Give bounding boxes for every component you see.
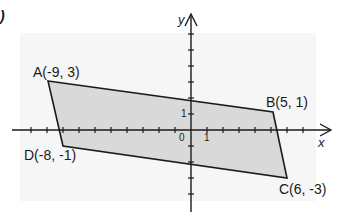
vertex-c-label: C(6, -3): [279, 181, 326, 197]
y-unit-label: 1: [181, 108, 187, 119]
coordinate-figure: ): [0, 0, 340, 224]
x-axis-label: x: [317, 135, 325, 150]
origin-label: 0: [179, 132, 185, 143]
x-unit-label: 1: [204, 132, 210, 143]
coordinate-plane: y x 0 1 1 A(-9, 3) B(5, 1) C(6, -3) D(-8…: [0, 0, 340, 224]
vertex-b-label: B(5, 1): [266, 94, 308, 110]
y-axis-label: y: [177, 12, 186, 27]
vertex-a-label: A(-9, 3): [33, 64, 80, 80]
vertex-d-label: D(-8, -1): [24, 147, 76, 163]
